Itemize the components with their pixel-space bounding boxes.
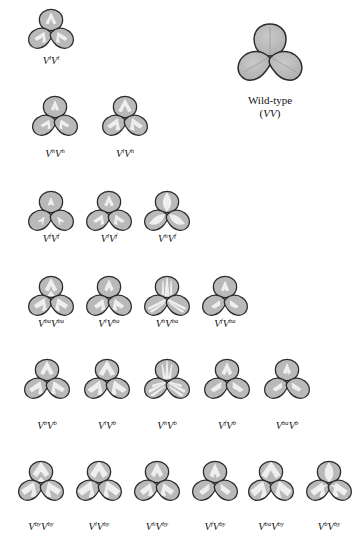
genotype-label: VbaVba bbox=[22, 318, 80, 329]
specimen-vf-vba: VfVba bbox=[196, 275, 254, 329]
leaflet-top bbox=[145, 461, 168, 482]
allele-superscript-left: f bbox=[49, 232, 51, 239]
allele-superscript-left: f bbox=[211, 520, 213, 527]
genotype-label: VhVba bbox=[138, 318, 196, 329]
leaflet-top bbox=[259, 461, 282, 482]
allele-superscript-left: l bbox=[49, 54, 51, 61]
leaf-cluster-wild-type bbox=[230, 22, 310, 92]
leaflet-right bbox=[98, 480, 121, 500]
leaflet-left bbox=[145, 210, 168, 230]
clover-variegation-figure: Wild-type (VV) VlVlVhVhVlVhVfVfVlVfVhVfV… bbox=[0, 0, 356, 548]
leaflet-top bbox=[87, 461, 110, 482]
leaflet-right bbox=[166, 210, 189, 230]
genotype-label: VfVby bbox=[186, 521, 244, 532]
leaflet-top bbox=[43, 96, 66, 117]
allele-superscript-right: f bbox=[174, 232, 176, 239]
leaflet-right bbox=[224, 295, 247, 315]
leaflet-top bbox=[97, 276, 120, 297]
genotype-label: VhVf bbox=[138, 233, 196, 244]
leaflet-right bbox=[270, 480, 293, 500]
specimen-vl-vb: VlVb bbox=[78, 358, 136, 431]
leaflet-right bbox=[328, 480, 351, 500]
leaf-cluster bbox=[22, 275, 80, 323]
genotype-label: VlVl bbox=[22, 55, 80, 66]
specimen-vh-vh: VhVh bbox=[26, 95, 84, 159]
leaflet-left bbox=[77, 480, 100, 500]
allele-superscript-right: b bbox=[295, 419, 298, 426]
leaflet-left bbox=[145, 295, 168, 315]
allele-superscript-left: ba bbox=[282, 419, 289, 426]
specimen-vf-vby: VfVby bbox=[186, 460, 244, 532]
leaf-cluster bbox=[18, 358, 76, 406]
leaflet-top bbox=[39, 9, 62, 30]
leaflet-left bbox=[103, 115, 126, 135]
leaflet-left bbox=[249, 480, 272, 500]
leaflet-top bbox=[155, 276, 178, 297]
leaflet-top bbox=[39, 276, 62, 297]
leaflet-right bbox=[46, 378, 69, 398]
allele-superscript-left: by bbox=[35, 520, 41, 527]
allele-superscript-left: ba bbox=[44, 317, 51, 324]
genotype-label: VhVb bbox=[138, 420, 196, 431]
allele-superscript-left: h bbox=[164, 232, 167, 239]
genotype-label: VbaVby bbox=[242, 521, 300, 532]
leaf-cluster bbox=[128, 460, 186, 508]
allele-superscript-right: by bbox=[219, 520, 225, 527]
specimen-vba-vby: VbaVby bbox=[242, 460, 300, 532]
specimen-vh-vb: VhVb bbox=[138, 358, 196, 431]
specimen-vby-vby: VbyVby bbox=[12, 460, 70, 532]
leaflet-left bbox=[19, 480, 42, 500]
allele-superscript-left: h bbox=[152, 520, 155, 527]
genotype-label: VlVb bbox=[78, 420, 136, 431]
specimen-vl-vba: VlVba bbox=[80, 275, 138, 329]
variegation-mark bbox=[162, 281, 163, 294]
allele-superscript-left: b bbox=[324, 520, 327, 527]
wild-type-caption-paren-close: ) bbox=[277, 107, 281, 119]
leaflet-right bbox=[166, 295, 189, 315]
specimen-vb-vby: VbVby bbox=[300, 460, 356, 532]
allele-superscript-right: ba bbox=[172, 317, 179, 324]
leaf-cluster bbox=[80, 190, 138, 238]
leaflet-top bbox=[35, 359, 58, 380]
allele-superscript-right: f bbox=[57, 232, 59, 239]
genotype-label: VfVb bbox=[198, 420, 256, 431]
allele-superscript-right: l bbox=[57, 54, 59, 61]
leaflet-top bbox=[155, 359, 178, 380]
leaflet-right bbox=[50, 295, 73, 315]
leaflet-right bbox=[156, 480, 179, 500]
leaflet-left bbox=[145, 378, 168, 398]
genotype-label: VbVby bbox=[300, 521, 356, 532]
allele-superscript-right: b bbox=[173, 419, 176, 426]
leaf-cluster bbox=[22, 190, 80, 238]
leaflet-top bbox=[317, 461, 340, 482]
leaflet-right bbox=[226, 378, 249, 398]
leaflet-top bbox=[213, 276, 236, 297]
allele-superscript-left: b bbox=[44, 419, 47, 426]
specimen-vb-vb: VbVb bbox=[18, 358, 76, 431]
allele-superscript-left: l bbox=[95, 520, 97, 527]
specimen-wild-type: Wild-type (VV) bbox=[215, 22, 325, 120]
leaflet-right bbox=[166, 378, 189, 398]
genotype-label: VfVf bbox=[22, 233, 80, 244]
leaflet-top bbox=[215, 359, 238, 380]
allele-superscript-left: h bbox=[164, 419, 167, 426]
genotype-label: VlVh bbox=[96, 148, 154, 159]
allele-superscript-right: b bbox=[233, 419, 236, 426]
leaf-cluster bbox=[96, 95, 154, 143]
leaflet-right bbox=[106, 378, 129, 398]
leaflet-left bbox=[29, 28, 52, 48]
genotype-label: VlVby bbox=[70, 521, 128, 532]
wild-type-genotype: VV bbox=[263, 107, 276, 119]
allele-superscript-right: ba bbox=[113, 317, 120, 324]
specimen-vl-vl: VlVl bbox=[22, 8, 80, 66]
genotype-label: VhVby bbox=[128, 521, 186, 532]
leaflet-left bbox=[135, 480, 158, 500]
leaflet-right bbox=[124, 115, 147, 135]
allele-superscript-right: ba bbox=[57, 317, 64, 324]
leaflet-left bbox=[203, 295, 226, 315]
allele-superscript-left: l bbox=[105, 317, 107, 324]
allele-superscript-right: f bbox=[115, 232, 117, 239]
leaflet-right bbox=[50, 210, 73, 230]
leaf-cluster bbox=[242, 460, 300, 508]
leaflet-right bbox=[54, 115, 77, 135]
